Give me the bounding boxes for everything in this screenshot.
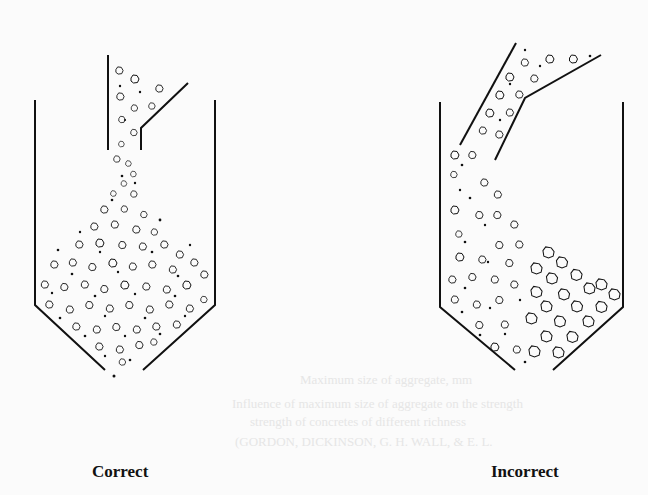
- incorrect-aggregate: [449, 49, 620, 364]
- incorrect-container: [440, 43, 623, 370]
- correct-container: [35, 55, 215, 370]
- concrete-placement-diagram: [0, 0, 648, 495]
- correct-aggregate: [41, 67, 208, 378]
- incorrect-caption: Incorrect: [491, 462, 559, 482]
- correct-caption: Correct: [92, 462, 148, 482]
